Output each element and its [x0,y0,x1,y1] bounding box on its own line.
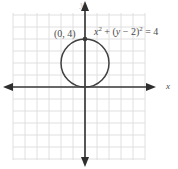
x-axis-label: x [166,82,170,91]
equation-label: x2 + (y − 2)2 = 4 [94,27,158,37]
point-marker-0-4 [83,37,88,42]
x-axis-arrow-left [3,83,13,91]
point-label-0-4: (0, 4) [54,29,76,39]
circle-graph-figure: (0, 4) x2 + (y − 2)2 = 4 x y [0,0,178,169]
x-axis-arrow-right [146,83,156,91]
y-axis-arrow-down [81,157,89,167]
y-axis-label: y [80,0,84,9]
